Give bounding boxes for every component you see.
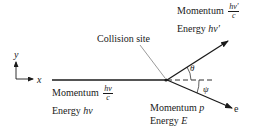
energy-value: hν xyxy=(83,105,92,116)
x-axis-label: x xyxy=(37,74,41,85)
energy-text: Energy xyxy=(52,105,81,116)
collision-point xyxy=(164,78,167,81)
collision-site-label: Collision site xyxy=(97,33,150,44)
fraction-denominator: c xyxy=(228,12,239,20)
incident-photon-momentum: Momentum hνc xyxy=(52,85,113,102)
energy-text: Energy xyxy=(177,23,206,34)
y-axis-label: y xyxy=(14,49,18,60)
momentum-text: Momentum xyxy=(52,87,99,98)
psi-label: ψ xyxy=(203,84,209,95)
electron-momentum: Momentum p xyxy=(150,102,204,113)
momentum-text: Momentum xyxy=(150,102,197,113)
scattered-photon-momentum: Momentum hν′c xyxy=(177,3,239,20)
energy-text: Energy xyxy=(150,115,179,126)
electron-energy: Energy E xyxy=(150,115,187,126)
energy-value: hν′ xyxy=(208,23,220,34)
momentum-fraction: hνc xyxy=(103,85,113,102)
collision-pointer-line xyxy=(140,45,165,78)
momentum-value: p xyxy=(199,102,204,113)
axes-icon xyxy=(16,62,33,79)
momentum-fraction: hν′c xyxy=(228,3,239,20)
incident-photon-energy: Energy hν xyxy=(52,105,93,116)
fraction-denominator: c xyxy=(103,94,113,102)
psi-arc xyxy=(197,80,199,93)
momentum-text: Momentum xyxy=(177,5,224,16)
scattered-photon-energy: Energy hν′ xyxy=(177,23,220,34)
theta-label: θ xyxy=(190,63,194,74)
energy-value: E xyxy=(181,115,187,126)
scattered-photon-arrow xyxy=(167,41,228,80)
electron-tag: e xyxy=(234,103,238,114)
